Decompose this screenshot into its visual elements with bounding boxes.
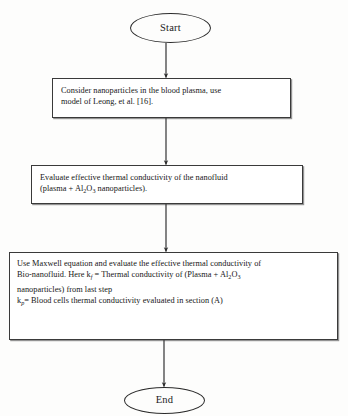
node-step-3-subscript-3: 3 [237, 275, 240, 281]
node-step-2-line-2-a: (plasma + Al [40, 184, 83, 193]
node-step-2-text: Evaluate effective thermal conductivity … [32, 166, 302, 198]
node-step-3-line-1: Use Maxwell equation and evaluate the ef… [17, 259, 261, 268]
connector-layer [0, 0, 348, 416]
node-step-3-line-4-b: = Blood cells thermal conductivity evalu… [24, 296, 223, 305]
node-step-1-text: Consider nanoparticles in the blood plas… [53, 79, 290, 108]
node-step-1-line-2: model of Leong, et al. [16]. [61, 97, 153, 106]
node-step-3-line-2-b: = Thermal conductivity of (Plasma + Al [92, 270, 228, 279]
node-start-label: Start [160, 22, 181, 33]
node-step-2-line-2-c: nanoparticles). [95, 184, 147, 193]
flowchart-canvas: Start Consider nanoparticles in the bloo… [0, 0, 348, 416]
node-start-terminator: Start [130, 13, 211, 43]
node-end-label: End [156, 395, 174, 406]
node-step-3-box: Use Maxwell equation and evaluate the ef… [9, 252, 338, 340]
node-step-2-box: Evaluate effective thermal conductivity … [31, 165, 303, 204]
node-step-3-line-2-a: Bio-nanofluid. Here k [17, 270, 91, 279]
node-step-3-line-3: nanoparticles) from last step [17, 285, 112, 294]
node-step-2-line-1: Evaluate effective thermal conductivity … [40, 173, 228, 182]
node-step-1-box: Consider nanoparticles in the blood plas… [52, 78, 291, 118]
node-step-3-text: Use Maxwell equation and evaluate the ef… [10, 253, 337, 310]
node-step-1-line-1: Consider nanoparticles in the blood plas… [61, 86, 221, 95]
node-end-terminator: End [124, 387, 205, 414]
